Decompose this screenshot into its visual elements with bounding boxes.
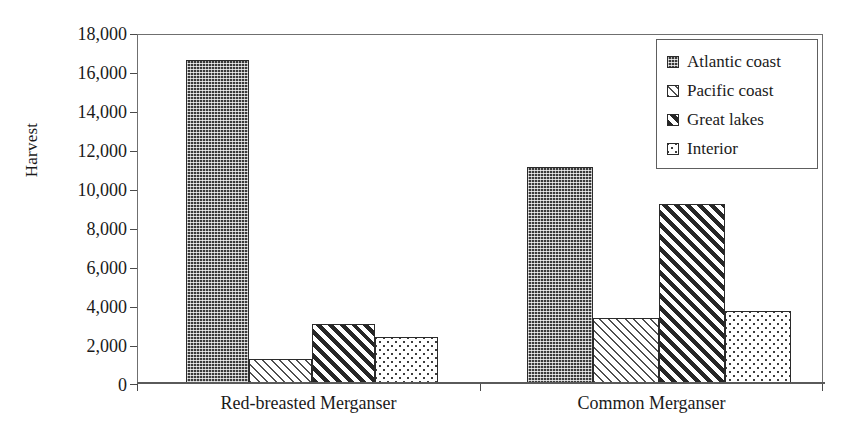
bar-red-breasted-merganser-atlantic-coast <box>186 60 249 383</box>
plot-area: Atlantic coast Pacific coast Great lakes… <box>137 34 823 384</box>
x-axis-category-label-red-breasted-merganser: Red-breasted Merganser <box>137 392 480 414</box>
y-axis-tick-mark <box>130 268 137 269</box>
bar-red-breasted-merganser-interior <box>375 337 438 383</box>
x-axis-tick-mark <box>822 384 823 391</box>
y-axis-tick-label: 4,000 <box>55 298 127 316</box>
y-axis-tick-label: 14,000 <box>55 103 127 121</box>
y-axis-tick-mark <box>130 384 137 385</box>
y-axis-tick-group: 18,000 16,000 14,000 12,000 10,000 8,000… <box>55 0 127 434</box>
y-axis-tick-mark <box>130 151 137 152</box>
legend-item-interior: Interior <box>667 134 809 163</box>
x-axis-category-label-common-merganser: Common Merganser <box>480 392 823 414</box>
legend-item-great-lakes: Great lakes <box>667 105 809 134</box>
y-axis-tick-mark <box>130 112 137 113</box>
y-axis-tick-label: 2,000 <box>55 337 127 355</box>
y-axis-title: Harvest <box>22 70 42 230</box>
bar-red-breasted-merganser-pacific-coast <box>249 359 312 383</box>
y-axis-tick-mark <box>130 307 137 308</box>
y-axis-tick-mark <box>130 190 137 191</box>
y-axis-tick-label: 8,000 <box>55 220 127 238</box>
legend: Atlantic coast Pacific coast Great lakes… <box>656 39 818 169</box>
y-axis-tick-mark <box>130 346 137 347</box>
bar-red-breasted-merganser-great-lakes <box>312 324 375 383</box>
bar-common-merganser-interior <box>725 311 791 383</box>
bar-common-merganser-atlantic-coast <box>527 167 593 383</box>
swatch-great-lakes-icon <box>667 114 679 126</box>
legend-label: Pacific coast <box>687 82 773 99</box>
swatch-atlantic-coast-icon <box>667 56 679 68</box>
bar-common-merganser-pacific-coast <box>593 318 659 383</box>
y-axis-tick-label: 6,000 <box>55 259 127 277</box>
legend-label: Interior <box>687 140 738 157</box>
y-axis-tick-label: 12,000 <box>55 142 127 160</box>
swatch-interior-icon <box>667 143 679 155</box>
legend-label: Great lakes <box>687 111 764 128</box>
y-axis-tick-mark <box>130 229 137 230</box>
y-axis-tick-label: 0 <box>55 376 127 394</box>
y-axis-tick-label: 10,000 <box>55 181 127 199</box>
y-axis-tick-mark <box>130 34 137 35</box>
x-axis-tick-mark <box>137 384 138 391</box>
y-axis-tick-label: 16,000 <box>55 64 127 82</box>
legend-item-pacific-coast: Pacific coast <box>667 76 809 105</box>
legend-item-atlantic-coast: Atlantic coast <box>667 47 809 76</box>
harvest-bar-chart: Harvest 18,000 16,000 14,000 12,000 10,0… <box>0 0 860 434</box>
legend-label: Atlantic coast <box>687 53 781 70</box>
bar-common-merganser-great-lakes <box>659 204 725 383</box>
x-axis-tick-mark <box>480 384 481 391</box>
swatch-pacific-coast-icon <box>667 85 679 97</box>
y-axis-tick-mark <box>130 73 137 74</box>
y-axis-tick-label: 18,000 <box>55 25 127 43</box>
